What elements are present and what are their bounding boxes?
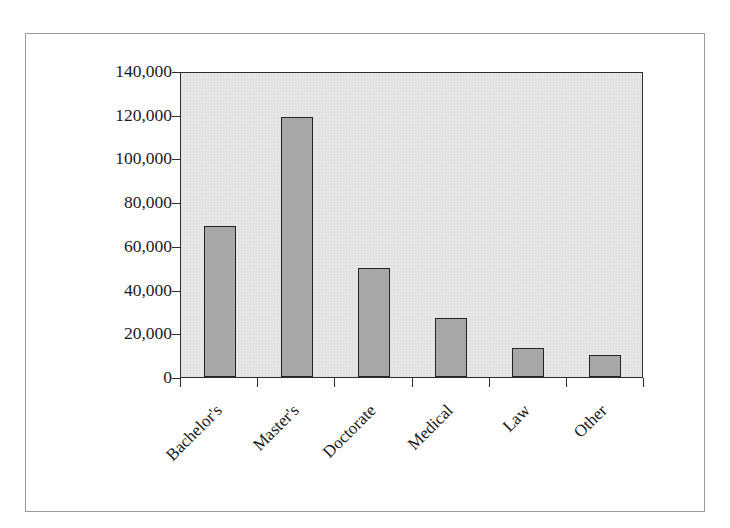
y-axis-tick-mark: [172, 159, 181, 160]
y-axis-tick-mark: [172, 116, 181, 117]
y-axis-tick-mark: [172, 203, 181, 204]
bar: [512, 348, 544, 378]
x-axis-tick-mark: [180, 378, 181, 387]
x-axis-tick-mark: [412, 378, 413, 387]
y-axis-tick-mark: [172, 72, 181, 73]
bar: [204, 226, 236, 377]
x-axis-tick-mark: [257, 378, 258, 387]
y-axis-tick-mark: [172, 334, 181, 335]
bar: [435, 318, 467, 377]
x-axis-tick-labels: Bachelor'sMaster'sDoctorateMedicalLawOth…: [0, 0, 730, 528]
y-axis-tick-mark: [172, 247, 181, 248]
x-axis-tick-mark: [566, 378, 567, 387]
x-axis-tick-mark: [643, 378, 644, 387]
bar: [589, 355, 621, 377]
x-axis-tick-mark: [334, 378, 335, 387]
bar-chart: 020,00040,00060,00080,000100,000120,0001…: [0, 0, 730, 528]
y-axis-tick-mark: [172, 291, 181, 292]
bar: [281, 117, 313, 377]
x-axis-tick-mark: [489, 378, 490, 387]
bar: [358, 268, 390, 377]
